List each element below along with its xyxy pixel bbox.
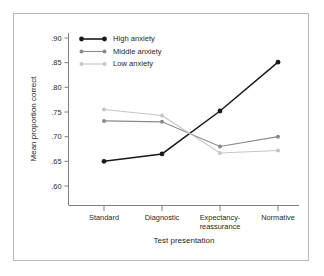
x-category-label-line1: Standard (89, 213, 119, 222)
x-axis-title: Test presentation (154, 236, 215, 245)
x-category-label: Expectancy-reassurance (200, 213, 241, 231)
legend-marker (80, 50, 84, 54)
y-tick-label: .75 (51, 108, 61, 117)
series-line (104, 110, 278, 153)
data-series (102, 108, 280, 155)
line-chart: .90.85.80.75.70.65.60 StandardDiagnostic… (0, 0, 324, 276)
data-point (218, 109, 223, 114)
legend-label: Middle anxiety (113, 47, 162, 56)
data-point (102, 108, 106, 112)
data-point (102, 159, 107, 164)
legend-marker (103, 50, 107, 54)
x-category-label: Standard (89, 213, 119, 222)
y-tick-label: .90 (51, 34, 61, 43)
y-tick-label: .80 (51, 83, 61, 92)
data-point (160, 152, 165, 157)
legend-label: Low anxiety (113, 59, 153, 68)
x-category-label-line1: Expectancy- (200, 213, 241, 222)
x-category-label-line1: Diagnostic (145, 213, 180, 222)
y-tick-label: .70 (51, 132, 61, 141)
legend-marker (102, 37, 107, 42)
legend-marker (103, 62, 107, 66)
x-axis-ticks (104, 206, 278, 212)
data-point (218, 151, 222, 155)
legend-marker (80, 62, 84, 66)
x-category-label-line2: reassurance (200, 222, 241, 231)
chart-legend: High anxietyMiddle anxietyLow anxiety (79, 34, 162, 68)
data-point (276, 135, 280, 139)
y-axis-ticks: .90.85.80.75.70.65.60 (51, 34, 68, 191)
y-axis-title: Mean proportion correct (29, 76, 38, 162)
x-axis-category-labels: StandardDiagnosticExpectancy-reassurance… (89, 213, 295, 231)
data-point (160, 120, 164, 124)
legend-item: Middle anxiety (80, 47, 162, 56)
legend-marker (79, 37, 84, 42)
y-tick-label: .60 (51, 182, 61, 191)
legend-label: High anxiety (113, 34, 155, 43)
y-tick-label: .85 (51, 58, 61, 67)
data-point (218, 145, 222, 149)
x-category-label-line1: Normative (261, 213, 295, 222)
x-category-label: Normative (261, 213, 295, 222)
data-series-group (102, 60, 281, 164)
legend-item: Low anxiety (80, 59, 154, 68)
legend-item: High anxiety (79, 34, 155, 43)
data-point (160, 113, 164, 117)
y-tick-label: .65 (51, 157, 61, 166)
figure-container: .90.85.80.75.70.65.60 StandardDiagnostic… (0, 0, 324, 276)
x-category-label: Diagnostic (145, 213, 180, 222)
data-point (276, 148, 280, 152)
data-point (276, 60, 281, 65)
data-point (102, 119, 106, 123)
